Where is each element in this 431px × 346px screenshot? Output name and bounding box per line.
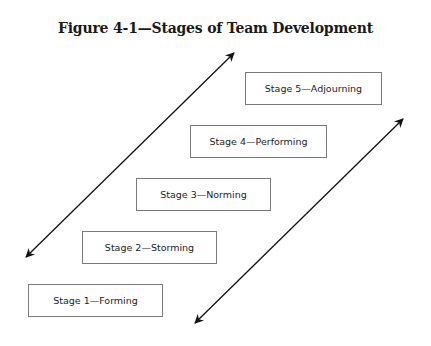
stage-3-label: Stage 3—Norming [160, 189, 247, 200]
stage-1-label: Stage 1—Forming [53, 295, 138, 306]
stage-4-label: Stage 4—Performing [210, 136, 308, 147]
stage-2-label: Stage 2—Storming [105, 242, 194, 253]
stage-5-label: Stage 5—Adjourning [265, 83, 362, 94]
stage-2-box: Stage 2—Storming [82, 231, 217, 264]
stage-5-box: Stage 5—Adjourning [245, 72, 382, 105]
stage-1-box: Stage 1—Forming [28, 284, 163, 317]
stage-3-box: Stage 3—Norming [136, 178, 271, 211]
stage-4-box: Stage 4—Performing [190, 125, 327, 158]
